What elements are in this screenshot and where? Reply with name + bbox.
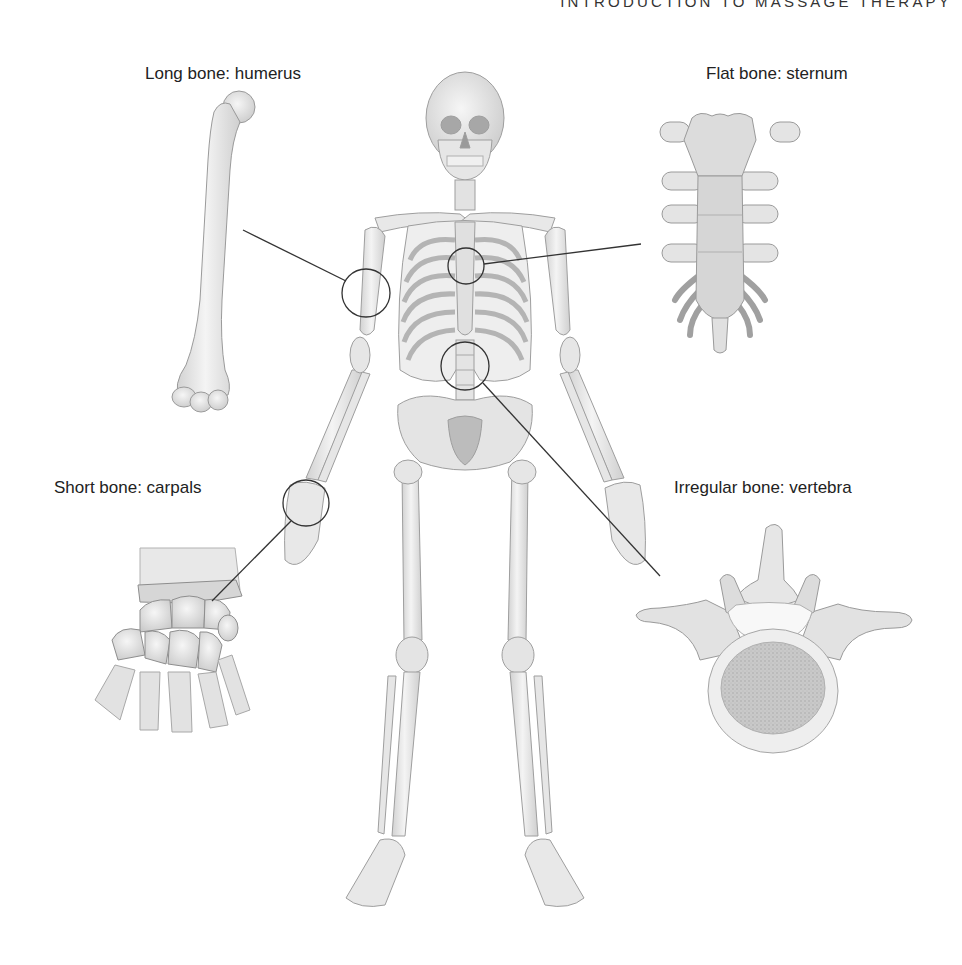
humerus-illustration [172,91,255,412]
sternum-illustration [660,113,800,353]
skull [426,72,504,180]
full-skeleton [285,72,646,906]
skeleton-diagram [0,0,962,965]
carpals-illustration [95,548,250,732]
vertebra-illustration [636,524,912,753]
